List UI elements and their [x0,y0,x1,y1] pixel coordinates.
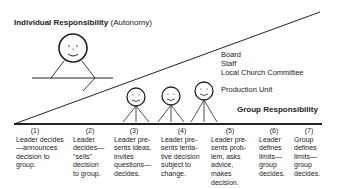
column-number: (5) [211,127,249,136]
column-number: (4) [161,127,203,136]
column-4: (4) Leader pre- sents tenta- tive decisi… [161,127,209,179]
column-7: (7) Group defines limits— group decides. [294,127,328,179]
level-staff: Staff [221,59,236,68]
column-text: Leader pre- sents prob- lem, asks advice… [211,136,257,188]
group-figure-icon-1 [123,88,149,122]
production-unit-label: Production Unit [221,85,272,94]
column-text: Group defines limits— group decides. [294,136,328,179]
column-text: Leader defines limits— group decides. [259,136,293,179]
column-number: (7) [294,127,324,136]
column-text: Leader decides —announces decision to gr… [16,136,70,170]
group-figure-icon-3 [191,82,217,122]
column-text: Leader pre- sents ideas, invites questio… [114,136,158,179]
column-text: Leader pre- sents tenta- tive decision s… [161,136,209,179]
column-2: (2) Leader decides— "sells" decision to … [73,127,113,179]
column-number: (3) [114,127,154,136]
level-board: Board [221,50,241,59]
column-5: (5) Leader pre- sents prob- lem, asks ad… [211,127,257,187]
group-responsibility-label: Group Responsibility [237,105,318,114]
column-number: (6) [259,127,289,136]
title-bold: Individual Responsibility [14,18,108,27]
column-3: (3) Leader pre- sents ideas, invites que… [114,127,158,179]
diagram-title: Individual Responsibility (Autonomy) [14,18,152,27]
column-number: (1) [16,127,54,136]
title-normal: (Autonomy) [110,18,151,27]
column-6: (6) Leader defines limits— group decides… [259,127,293,179]
column-number: (2) [73,127,107,136]
group-figure-icon-2 [158,87,184,122]
column-1: (1) Leader decides —announces decision t… [16,127,70,170]
column-text: Leader decides— "sells" decision to grou… [73,136,113,179]
level-local-church-committee: Local Church Committee [221,68,304,77]
individual-figure-icon [32,34,113,91]
